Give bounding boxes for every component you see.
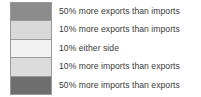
legend-item: 10% more exports than imports [59, 21, 201, 40]
legend-item: 10% more imports than exports [59, 58, 201, 77]
swatch-50-more-exports [11, 3, 51, 21]
legend-item-label: 50% more exports than imports [59, 7, 180, 16]
legend-item-label: 50% more imports than exports [59, 81, 180, 90]
map-legend: 50% more exports than imports 10% more e… [0, 0, 201, 97]
swatch-10-more-imports [11, 58, 51, 76]
legend-item-label: 10% more exports than imports [59, 25, 180, 34]
legend-item: 50% more exports than imports [59, 2, 201, 21]
legend-item: 10% either side [59, 39, 201, 58]
swatch-10-more-exports [11, 21, 51, 39]
legend-item-label: 10% either side [59, 44, 119, 53]
swatch-50-more-imports [11, 77, 51, 94]
legend-item: 50% more imports than exports [59, 76, 201, 95]
legend-label-column: 50% more exports than imports 10% more e… [59, 2, 201, 95]
legend-item-label: 10% more imports than exports [59, 62, 180, 71]
swatch-10-either-side [11, 40, 51, 58]
legend-swatch-column [10, 2, 52, 95]
